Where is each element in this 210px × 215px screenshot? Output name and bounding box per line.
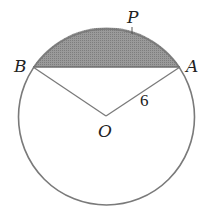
label-b: B [13, 56, 27, 76]
label-radius: 6 [140, 91, 149, 110]
shaded-segment [33, 27, 180, 67]
label-p: P [126, 7, 139, 27]
label-o: O [98, 121, 112, 141]
label-a: A [184, 56, 198, 76]
circle-diagram: P B A O 6 [0, 0, 210, 215]
radius-ob [33, 67, 106, 116]
